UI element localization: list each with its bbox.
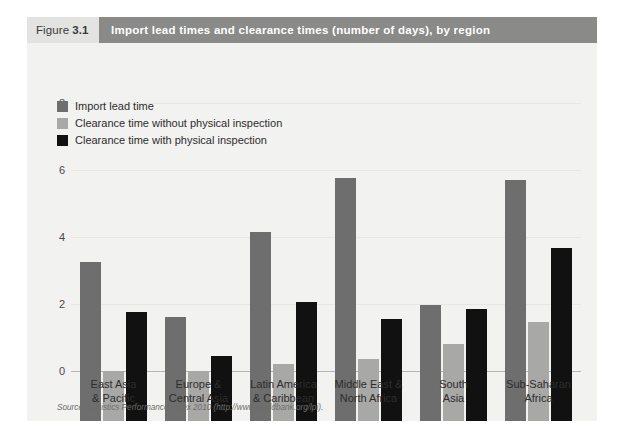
x-axis-category-label: Europe &Central Asia [156, 378, 241, 405]
bar-group-bars [326, 93, 411, 421]
bar[interactable] [528, 322, 549, 421]
legend-swatch-icon [57, 101, 68, 112]
y-axis-tick: 2 [27, 298, 65, 310]
x-axis-category-line: Sub-Saharan [496, 378, 581, 392]
x-axis-category-label: Middle East &North Africa [326, 378, 411, 405]
legend-label: Clearance time with physical inspection [75, 134, 267, 146]
bar-group [411, 93, 496, 421]
figure-source: Source: Logistics Performance Index 2010… [57, 403, 323, 412]
legend-item[interactable]: Clearance time with physical inspection [57, 133, 282, 147]
y-axis-tick: 6 [27, 164, 65, 176]
figure-card: Figure 3.1 Import lead times and clearan… [27, 17, 597, 421]
y-axis-tick: 0 [27, 365, 65, 377]
x-axis-category-line: Africa [496, 392, 581, 406]
figure-number: Figure 3.1 [27, 17, 99, 43]
x-axis-category-line: Latin America [241, 378, 326, 392]
bar[interactable] [381, 319, 402, 421]
x-axis-labels: East Asia& PacificEurope &Central AsiaLa… [71, 378, 581, 405]
x-axis-category-line: East Asia [71, 378, 156, 392]
figure-number-value: 3.1 [72, 24, 88, 36]
legend-label: Clearance time without physical inspecti… [75, 117, 282, 129]
x-axis-category-line: Europe & [156, 378, 241, 392]
figure-title: Import lead times and clearance times (n… [99, 17, 597, 43]
x-axis-category-line: Asia [411, 392, 496, 406]
legend-label: Import lead time [75, 100, 154, 112]
figure-root: Figure 3.1 Import lead times and clearan… [0, 0, 623, 440]
bar-group-bars [411, 93, 496, 421]
y-axis-tick: 4 [27, 231, 65, 243]
chart-legend: Import lead timeClearance time without p… [57, 99, 282, 147]
plot-area: 02468 Import lead timeClearance time wit… [27, 43, 597, 421]
x-axis-category-line: South [411, 378, 496, 392]
figure-number-word: Figure [36, 24, 69, 36]
legend-swatch-icon [57, 135, 68, 146]
x-axis-category-label: Sub-SaharanAfrica [496, 378, 581, 405]
legend-swatch-icon [57, 118, 68, 129]
x-axis-category-label: Latin America& Caribbean [241, 378, 326, 405]
figure-title-bar: Figure 3.1 Import lead times and clearan… [27, 17, 597, 43]
x-axis-category-label: SouthAsia [411, 378, 496, 405]
x-axis-category-line: North Africa [326, 392, 411, 406]
x-axis-category-label: East Asia& Pacific [71, 378, 156, 405]
bar-group [326, 93, 411, 421]
x-axis-category-line: Middle East & [326, 378, 411, 392]
legend-item[interactable]: Clearance time without physical inspecti… [57, 116, 282, 130]
bar-group [496, 93, 581, 421]
bar-group-bars [496, 93, 581, 421]
legend-item[interactable]: Import lead time [57, 99, 282, 113]
